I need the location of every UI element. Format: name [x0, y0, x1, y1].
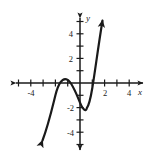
x-tick-label--4: -4 — [27, 88, 35, 98]
x-tick-label-4: 4 — [127, 88, 132, 98]
y-tick-label-4: 4 — [69, 29, 74, 39]
y-tick-label--4: -4 — [67, 128, 75, 138]
y-tick-label--2: -2 — [67, 103, 74, 113]
y-axis-group — [77, 18, 84, 150]
cartesian-plot: y x -4 2 4 4 2 -2 -4 — [0, 0, 159, 156]
x-tick-label-2: 2 — [103, 88, 107, 98]
x-axis-label: x — [137, 87, 142, 97]
y-tick-label-2: 2 — [69, 54, 73, 64]
y-axis-label: y — [85, 13, 90, 23]
graph-figure: y x -4 2 4 4 2 -2 -4 — [0, 0, 159, 156]
